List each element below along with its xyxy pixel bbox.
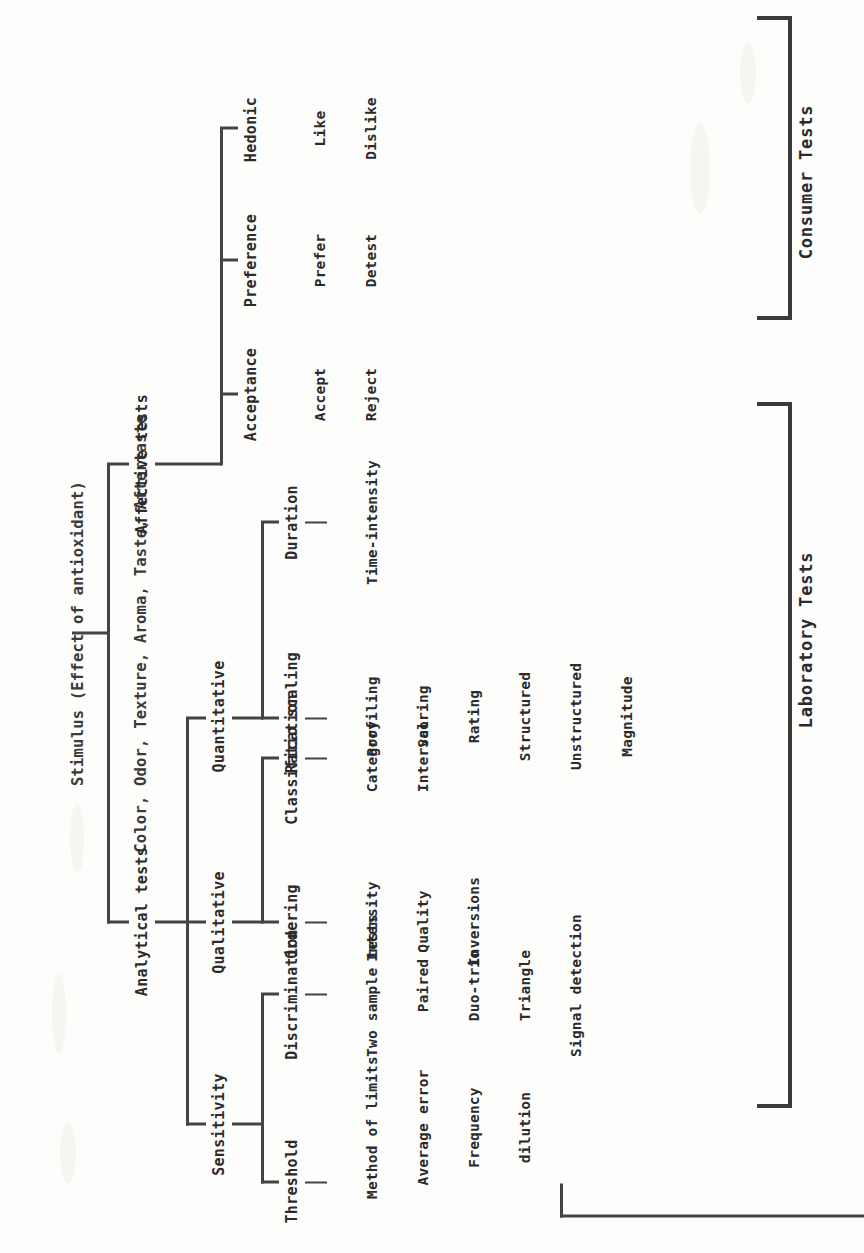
- ratio-scaling-leaf-stem: [305, 717, 327, 719]
- threshold-leaf-stem: [305, 1181, 327, 1183]
- ordering-leaf-stem: [305, 921, 327, 923]
- affective-drop: [107, 463, 129, 466]
- leaf-item: Accept: [312, 331, 329, 457]
- hedonic-leaf-list: Like Dislike: [278, 65, 414, 191]
- leaf-item: Prefer: [312, 197, 329, 323]
- node-hedonic-label: Hedonic: [243, 63, 260, 195]
- diagram-title: Stimulus (Effect of antioxidant) Color, …: [26, 313, 194, 953]
- leaf-item: Like: [312, 65, 329, 191]
- node-preference-label: Preference: [243, 189, 260, 331]
- qualitative-stem: [232, 921, 262, 924]
- ratio-scaling-leaf-list: Profiling Scoring Rating Structured Unst…: [330, 641, 670, 791]
- acceptance-drop: [220, 393, 238, 396]
- analytical-stem: [155, 921, 187, 924]
- preference-leaf-list: Prefer Detest: [278, 197, 414, 323]
- hedonic-drop: [220, 127, 238, 130]
- leaf-item: Detest: [363, 197, 380, 323]
- diagram-canvas: Stimulus (Effect of antioxidant) Color, …: [0, 0, 864, 1253]
- quantitative-stem: [232, 717, 262, 720]
- leaf-item: Scoring: [415, 641, 432, 791]
- node-ordering-label: Ordering: [284, 861, 301, 981]
- leaf-item: Dislike: [363, 65, 380, 191]
- node-qualitative-label: Qualitative: [211, 851, 228, 993]
- node-threshold-label: Threshold: [284, 1119, 301, 1243]
- classification-drop: [261, 757, 279, 760]
- node-sensitivity-label: Sensitivity: [211, 1053, 228, 1195]
- qualitative-spreader: [261, 757, 264, 923]
- discrimination-leaf-stem: [305, 993, 327, 995]
- leaf-item: Inversions: [466, 847, 483, 995]
- quantitative-spreader: [261, 521, 264, 719]
- qualitative-drop: [186, 921, 206, 924]
- sensitivity-spreader: [261, 993, 264, 1183]
- discrimination-drop: [261, 993, 279, 996]
- duration-drop: [261, 521, 279, 524]
- leaf-item: Rating: [466, 641, 483, 791]
- node-ratio-scaling-label: Ratio scaling: [284, 637, 301, 787]
- branch-affective-label: Affective tests: [134, 386, 151, 541]
- leaf-item: Time-intensity: [364, 447, 381, 597]
- duration-leaf-stem: [305, 521, 327, 523]
- ordering-drop: [261, 921, 279, 924]
- scan-smudge: [740, 43, 756, 103]
- node-quantitative-label: Quantitative: [211, 641, 228, 791]
- leaf-item: Magnitude: [619, 641, 636, 791]
- ratio-scaling-drop: [261, 717, 279, 720]
- affective-link: [220, 393, 223, 465]
- classification-leaf-stem: [305, 757, 327, 759]
- node-duration-label: Duration: [284, 459, 301, 585]
- sensitivity-stem: [232, 1123, 262, 1126]
- leaf-item: Quality: [415, 847, 432, 995]
- root-stem: [72, 632, 108, 635]
- scan-smudge: [60, 1123, 76, 1183]
- quantitative-drop: [186, 717, 206, 720]
- leaf-item: Structured: [517, 641, 534, 791]
- analytical-drop: [107, 921, 129, 924]
- leaf-item: Signal detection: [568, 895, 585, 1075]
- leaf-item: Reject: [363, 331, 380, 457]
- scan-smudge: [690, 123, 710, 213]
- scan-smudge: [52, 973, 66, 1053]
- branch-analytical-label: Analytical tests: [134, 841, 151, 1001]
- node-acceptance-label: Acceptance: [243, 323, 260, 465]
- root-spreader: [107, 463, 110, 923]
- preference-drop: [220, 259, 238, 262]
- threshold-drop: [261, 1181, 279, 1184]
- duration-leaf-list: Time-intensity: [330, 447, 415, 597]
- leaf-item: Triangle: [517, 895, 534, 1075]
- leaf-item: Profiling: [364, 641, 381, 791]
- leaf-item: Unstructured: [568, 641, 585, 791]
- acceptance-leaf-list: Accept Reject: [278, 331, 414, 457]
- leaf-item: Intensity: [364, 847, 381, 995]
- affective-stem: [155, 463, 221, 466]
- laboratory-bracket-spine: [560, 1214, 864, 1217]
- rotated-diagram-stage: Stimulus (Effect of antioxidant) Color, …: [0, 0, 864, 1253]
- laboratory-bracket-top: [560, 1183, 563, 1217]
- sensitivity-drop: [186, 1123, 206, 1126]
- ordering-leaf-list: Intensity Quality Inversions: [330, 847, 517, 995]
